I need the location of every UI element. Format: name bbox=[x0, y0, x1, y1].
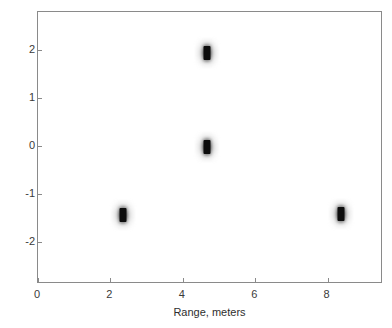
y-tick-mark bbox=[38, 194, 42, 195]
x-tick-mark bbox=[110, 278, 111, 282]
x-tick-mark bbox=[328, 278, 329, 282]
x-tick-label: 4 bbox=[179, 288, 185, 301]
x-tick-label: 8 bbox=[324, 288, 330, 301]
data-point-core bbox=[203, 46, 210, 60]
y-tick-label: 1 bbox=[29, 91, 35, 104]
y-tick-mark bbox=[38, 146, 42, 147]
y-tick-label: 0 bbox=[29, 139, 35, 152]
x-tick-mark bbox=[255, 278, 256, 282]
x-axis-title: Range, meters bbox=[37, 306, 382, 318]
x-tick-label: 6 bbox=[251, 288, 257, 301]
x-tick-mark bbox=[38, 278, 39, 282]
x-tick-mark bbox=[183, 278, 184, 282]
y-tick-mark bbox=[38, 242, 42, 243]
y-tick-label: -1 bbox=[25, 187, 35, 200]
y-tick-label: -2 bbox=[25, 235, 35, 248]
data-point-core bbox=[203, 140, 210, 154]
x-tick-label: 0 bbox=[34, 288, 40, 301]
x-tick-label: 2 bbox=[106, 288, 112, 301]
y-tick-label: 2 bbox=[29, 43, 35, 56]
y-tick-mark bbox=[38, 50, 42, 51]
y-tick-mark bbox=[38, 98, 42, 99]
plot-area bbox=[37, 11, 382, 283]
chart-figure: 02468 -2-1012 Range, meters Speed, meter… bbox=[0, 0, 392, 328]
data-point-core bbox=[120, 208, 127, 222]
data-point-core bbox=[338, 207, 345, 221]
